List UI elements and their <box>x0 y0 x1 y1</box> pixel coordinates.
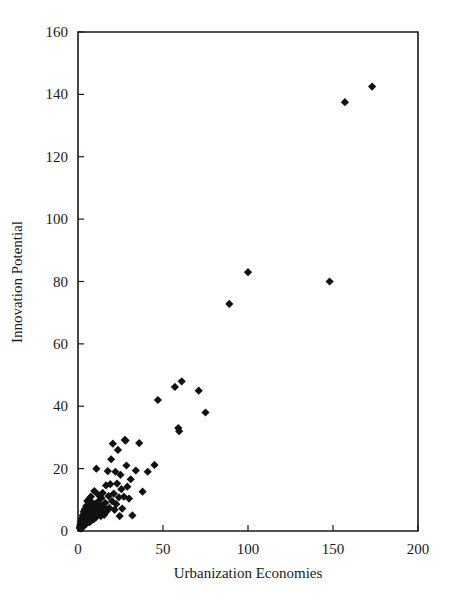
data-point-marker <box>201 408 209 416</box>
x-axis-ticks <box>78 525 418 531</box>
y-axis-tick-labels: 020406080100120140160 <box>46 24 69 539</box>
data-point-marker <box>144 468 152 476</box>
data-point-marker <box>132 466 140 474</box>
y-tick-label: 0 <box>61 523 69 539</box>
data-point-marker <box>104 467 112 475</box>
data-point-marker <box>171 383 179 391</box>
x-axis-tick-labels: 050100150200 <box>74 541 429 557</box>
plot-frame <box>78 32 418 531</box>
data-point-marker <box>139 488 147 496</box>
data-point-marker <box>122 461 130 469</box>
y-tick-label: 80 <box>53 274 68 290</box>
y-tick-label: 40 <box>53 398 68 414</box>
x-tick-label: 200 <box>407 541 430 557</box>
data-point-marker <box>107 455 115 463</box>
data-point-marker <box>118 504 126 512</box>
data-point-marker <box>368 82 376 90</box>
y-axis-ticks <box>78 32 84 531</box>
data-point-marker <box>225 300 233 308</box>
y-tick-label: 60 <box>53 336 68 352</box>
chart-canvas: 050100150200 020406080100120140160 Urban… <box>0 0 450 604</box>
x-tick-label: 50 <box>156 541 171 557</box>
data-point-marker <box>154 396 162 404</box>
data-point-marker <box>122 436 130 444</box>
y-tick-label: 160 <box>46 24 69 40</box>
x-tick-label: 100 <box>237 541 260 557</box>
y-tick-label: 100 <box>46 211 69 227</box>
data-point-marker <box>178 377 186 385</box>
data-point-marker <box>150 461 158 469</box>
data-point-marker <box>113 479 121 487</box>
y-tick-label: 140 <box>46 86 69 102</box>
data-point-marker <box>341 98 349 106</box>
data-point-marker <box>114 446 122 454</box>
data-point-marker <box>127 475 135 483</box>
x-axis-title: Urbanization Economies <box>174 565 323 581</box>
scatter-plot-figure: 050100150200 020406080100120140160 Urban… <box>0 0 450 604</box>
x-tick-label: 0 <box>74 541 82 557</box>
y-tick-label: 120 <box>46 149 69 165</box>
data-point-marker <box>128 511 136 519</box>
x-tick-label: 150 <box>322 541 345 557</box>
data-point-marker <box>92 465 100 473</box>
plot-border <box>78 32 418 531</box>
scatter-data-points <box>76 82 377 532</box>
data-point-marker <box>135 439 143 447</box>
data-point-marker <box>116 512 124 520</box>
data-point-marker <box>195 387 203 395</box>
data-point-marker <box>109 440 117 448</box>
y-tick-label: 20 <box>53 461 68 477</box>
data-point-marker <box>244 268 252 276</box>
y-axis-title: Innovation Potential <box>9 221 25 343</box>
data-point-marker <box>326 277 334 285</box>
